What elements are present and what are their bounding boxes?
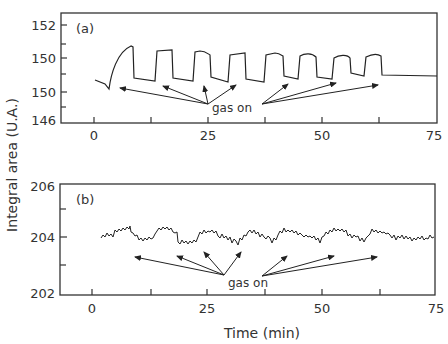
panel-b-xtick-75: 75 xyxy=(428,301,445,316)
y-axis-label: Integral area (U.A.) xyxy=(4,98,20,232)
panel-a-x-ticks xyxy=(94,117,379,123)
panel-a-series-line xyxy=(95,46,437,89)
panel-b-series-line xyxy=(101,226,434,245)
panel-b-gas-on-label: gas on xyxy=(228,276,268,290)
figure: 152 150 150 146 0 25 50 75 (a) gas on xyxy=(0,0,448,344)
panel-a-y-ticks xyxy=(61,25,67,107)
panel-a-xtick-50: 50 xyxy=(314,128,331,143)
panel-a-ytick-150-lower: 150 xyxy=(31,85,56,100)
panel-a-label: (a) xyxy=(76,21,94,36)
panel-a-xtick-25: 25 xyxy=(200,128,217,143)
panel-a-ytick-152: 152 xyxy=(31,18,56,33)
panel-b-gas-on-arrows xyxy=(135,252,377,276)
x-axis-label: Time (min) xyxy=(223,325,300,341)
panel-a: 152 150 150 146 0 25 50 75 (a) gas on xyxy=(31,13,442,143)
panel-b-y-ticks xyxy=(60,209,67,265)
panel-b-ytick-206: 206 xyxy=(30,179,55,194)
panel-a-gas-on-label: gas on xyxy=(212,101,252,115)
panel-a-xtick-0: 0 xyxy=(90,128,98,143)
panel-b-xtick-50: 50 xyxy=(314,301,331,316)
panel-a-ytick-146: 146 xyxy=(31,113,56,128)
panel-a-ytick-150-upper: 150 xyxy=(31,51,56,66)
panel-a-xtick-75: 75 xyxy=(426,128,443,143)
panel-b-ytick-204: 204 xyxy=(30,230,55,245)
panel-b-label: (b) xyxy=(76,192,94,207)
panel-b-xtick-0: 0 xyxy=(88,301,96,316)
panel-b-ytick-202: 202 xyxy=(30,286,55,301)
panel-b-xtick-25: 25 xyxy=(199,301,216,316)
panel-b: 206 204 202 0 25 50 75 (b) gas on xyxy=(30,179,444,316)
